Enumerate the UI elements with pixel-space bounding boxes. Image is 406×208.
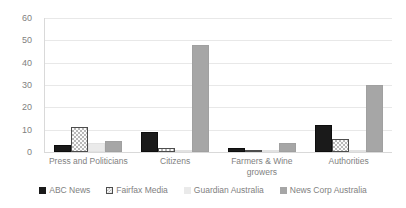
y-tick-label: 60 <box>22 14 32 23</box>
y-tick-label: 50 <box>22 36 32 45</box>
bar-chart: 60 50 40 30 20 10 0 <box>0 0 406 208</box>
legend-swatch-icon <box>280 187 287 194</box>
y-tick-label: 40 <box>22 58 32 67</box>
legend-item-news-corp-australia[interactable]: News Corp Australia <box>280 186 367 195</box>
bar-group-press-and-politicians <box>45 18 132 152</box>
y-tick-label: 30 <box>22 81 32 90</box>
legend-item-fairfax-media[interactable]: Fairfax Media <box>106 186 168 195</box>
y-tick-label: 10 <box>22 125 32 134</box>
legend-swatch-icon <box>39 187 46 194</box>
x-label-citizens: Citizens <box>132 156 219 178</box>
legend-label: News Corp Australia <box>290 186 367 195</box>
bar-news-corp-australia[interactable] <box>105 141 122 152</box>
bar-news-corp-australia[interactable] <box>366 85 383 152</box>
y-tick-label: 0 <box>27 148 32 157</box>
bar-group-citizens <box>132 18 219 152</box>
bar-fairfax-media[interactable] <box>158 148 175 153</box>
legend-swatch-icon <box>184 187 191 194</box>
legend-label: Guardian Australia <box>194 186 264 195</box>
bar-abc-news[interactable] <box>141 132 158 152</box>
bar-fairfax-media[interactable] <box>71 127 88 152</box>
bar-fairfax-media[interactable] <box>245 150 262 152</box>
bar-group-authorities <box>305 18 392 152</box>
y-tick-label: 20 <box>22 103 32 112</box>
legend-item-abc-news[interactable]: ABC News <box>39 186 90 195</box>
y-axis-labels: 60 50 40 30 20 10 0 <box>0 0 40 208</box>
legend-item-guardian-australia[interactable]: Guardian Australia <box>184 186 264 195</box>
x-label-press-and-politicians: Press and Politicians <box>45 156 132 178</box>
x-axis-labels: Press and Politicians Citizens Farmers &… <box>45 156 392 178</box>
legend-swatch-icon <box>106 187 113 194</box>
gridline-0 <box>44 152 392 153</box>
bar-guardian-australia[interactable] <box>349 150 366 152</box>
legend-label: Fairfax Media <box>116 186 168 195</box>
x-label-farmers-and-wine-growers: Farmers & Wine growers <box>219 156 306 178</box>
bar-group-farmers-and-wine-growers <box>219 18 306 152</box>
bar-abc-news[interactable] <box>54 145 71 152</box>
x-label-authorities: Authorities <box>305 156 392 178</box>
bar-guardian-australia[interactable] <box>262 150 279 152</box>
bar-news-corp-australia[interactable] <box>192 45 209 152</box>
bar-guardian-australia[interactable] <box>175 150 192 152</box>
bar-news-corp-australia[interactable] <box>279 143 296 152</box>
bar-guardian-australia[interactable] <box>88 143 105 152</box>
bar-fairfax-media[interactable] <box>332 139 349 152</box>
legend-label: ABC News <box>49 186 90 195</box>
chart-legend: ABC News Fairfax Media Guardian Australi… <box>0 186 406 195</box>
bar-abc-news[interactable] <box>315 125 332 152</box>
bar-groups <box>45 18 392 152</box>
bar-abc-news[interactable] <box>228 148 245 153</box>
